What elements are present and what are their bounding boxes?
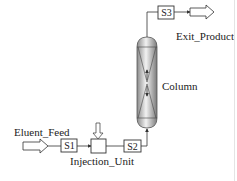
exit-product-label: Exit_Product xyxy=(176,31,234,42)
eluent-feed-label: Eluent_Feed xyxy=(14,127,70,138)
right-edge-divider xyxy=(234,0,235,181)
column-label: Column xyxy=(162,81,197,92)
injection-unit-label: Injection_Unit xyxy=(70,156,134,167)
s2-label: S2 xyxy=(124,141,141,152)
injection-down-arrow-icon xyxy=(93,123,103,139)
eluent-feed-arrow-icon[interactable] xyxy=(23,139,48,153)
s3-label: S3 xyxy=(158,7,175,18)
process-diagram xyxy=(0,0,237,181)
edge-column-s3 xyxy=(147,12,158,37)
edge-s2-column xyxy=(141,129,147,146)
column-vessel[interactable] xyxy=(137,37,157,128)
injection-unit-box[interactable] xyxy=(91,139,106,153)
s1-label: S1 xyxy=(61,140,78,151)
exit-product-arrow-icon[interactable] xyxy=(190,5,214,19)
